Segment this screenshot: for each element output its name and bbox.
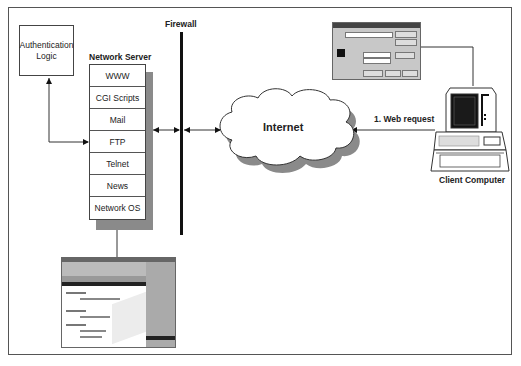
browser-screenshot-thumbnail xyxy=(61,257,176,348)
auth-arrow-up-icon xyxy=(46,78,52,84)
client-computer-label: Client Computer xyxy=(439,175,505,185)
service-www: WWW xyxy=(90,65,145,87)
authentication-logic-box: Authentication Logic xyxy=(19,25,74,76)
service-network-os: Network OS xyxy=(90,197,145,219)
service-cgi-scripts: CGI Scripts xyxy=(90,87,145,109)
firewall-label: Firewall xyxy=(165,19,197,29)
client-computer-icon xyxy=(431,88,509,171)
auth-label-line1: Authentication xyxy=(20,40,74,51)
server-title: Network Server xyxy=(89,52,151,62)
network-server-stack: WWW CGI Scripts Mail FTP Telnet News Net… xyxy=(89,64,146,220)
auth-label-line2: Logic xyxy=(20,51,74,62)
firewall-line xyxy=(180,32,183,235)
service-news: News xyxy=(90,175,145,197)
internet-label: Internet xyxy=(263,121,303,133)
service-telnet: Telnet xyxy=(90,153,145,175)
web-request-label: 1. Web request xyxy=(374,114,434,124)
service-ftp: FTP xyxy=(90,131,145,153)
service-mail: Mail xyxy=(90,109,145,131)
login-dialog-screenshot xyxy=(332,22,421,80)
